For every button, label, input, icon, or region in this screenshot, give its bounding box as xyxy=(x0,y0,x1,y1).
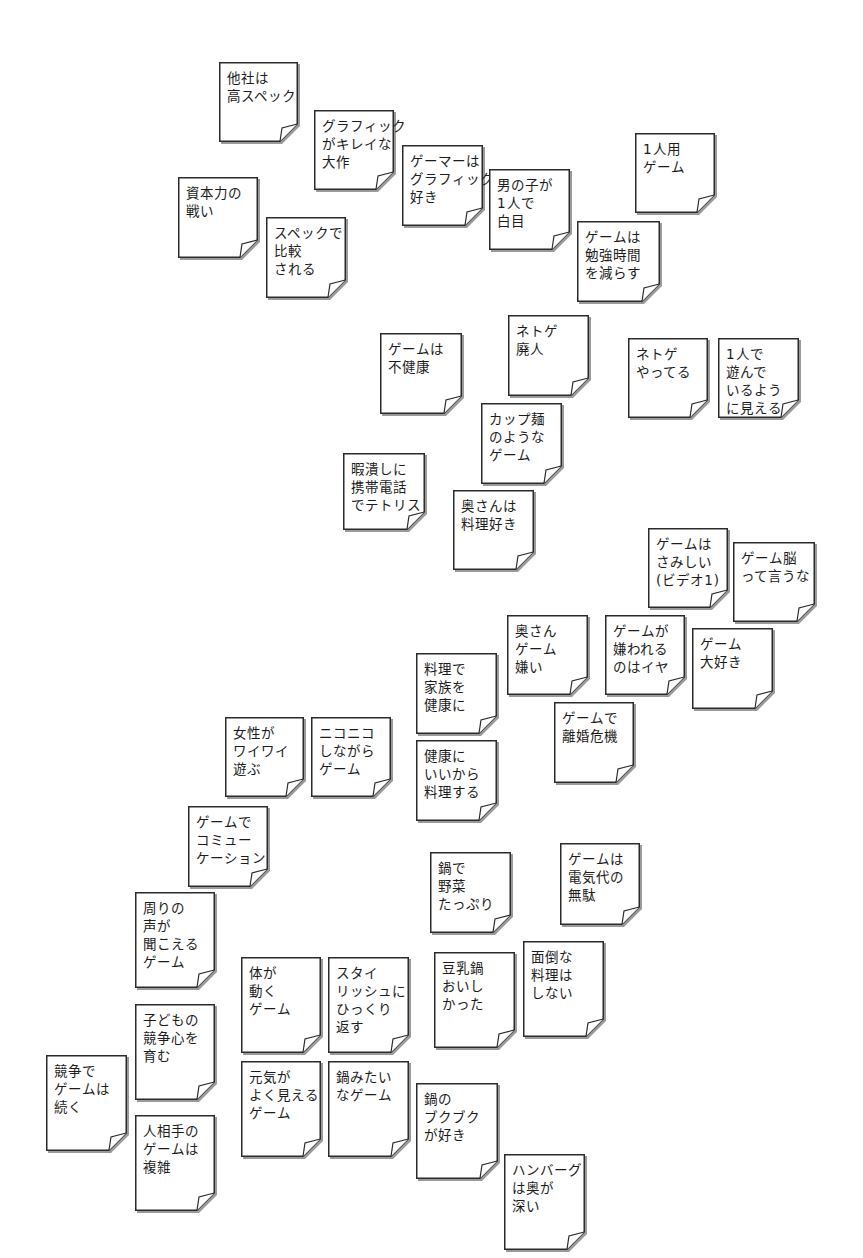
sticky-note-n03[interactable]: ゲーマーはグラフィック好き xyxy=(402,145,483,226)
note-line: ゲームは xyxy=(656,535,724,553)
note-line: スペックで xyxy=(274,224,342,242)
note-line: ニコニコ xyxy=(319,724,387,742)
note-line: よく見える xyxy=(249,1086,317,1104)
note-line: 返す xyxy=(336,1018,405,1036)
note-text: ゲームは勉強時間を減らす xyxy=(585,228,656,282)
note-line: 嫌い xyxy=(515,658,584,676)
sticky-note-n36[interactable]: 元気がよく見えるゲーム xyxy=(241,1061,321,1157)
sticky-note-n10[interactable]: ネトゲ廃人 xyxy=(508,315,589,396)
note-line: 豆乳鍋 xyxy=(442,959,511,977)
sticky-note-n27[interactable]: 鍋で野菜たっぷり xyxy=(430,852,511,933)
note-line: 高スペック xyxy=(227,87,294,105)
note-text: 鍋のブクブクが好き xyxy=(424,1090,494,1144)
note-line: ゲーム xyxy=(489,446,558,464)
note-text: 競争でゲームは続く xyxy=(54,1062,123,1116)
sticky-note-n14[interactable]: 暇潰しに携帯電話でテトリス xyxy=(343,453,425,530)
note-line: 比較 xyxy=(274,242,342,260)
note-text: ニコニコしながらゲーム xyxy=(319,724,387,778)
note-line: ゲーム xyxy=(515,640,584,658)
sticky-note-n31[interactable]: 豆乳鍋おいしかった xyxy=(434,952,515,1048)
note-line: 人相手の xyxy=(143,1122,211,1140)
note-text: ゲームはさみしい(ビデオ1) xyxy=(656,535,724,589)
sticky-note-n09[interactable]: ゲームは不健康 xyxy=(380,333,462,414)
note-line: を減らす xyxy=(585,264,656,282)
note-text: 鍋みたいなゲーム xyxy=(336,1068,405,1104)
note-line: 好き xyxy=(410,188,479,206)
note-line: 奥さん xyxy=(515,622,584,640)
note-line: 大好き xyxy=(700,653,769,671)
sticky-note-n07[interactable]: スペックで比較される xyxy=(266,217,346,298)
note-line: カップ麺 xyxy=(489,410,558,428)
sticky-note-n30[interactable]: 面倒な料理はしない xyxy=(523,941,604,1037)
note-text: 1人で遊んでいるように見える xyxy=(726,345,795,417)
note-line: がキレイな xyxy=(322,135,390,153)
sticky-note-n16[interactable]: ゲームはさみしい(ビデオ1) xyxy=(648,528,728,608)
note-line: 健康に xyxy=(424,747,493,765)
note-line: 1人用 xyxy=(643,140,711,158)
sticky-note-n39[interactable]: 人相手のゲームは複雑 xyxy=(135,1115,215,1211)
note-line: しながら xyxy=(319,742,387,760)
sticky-note-n08[interactable]: ゲームは勉強時間を減らす xyxy=(577,221,660,302)
note-line: は奥が xyxy=(512,1179,581,1197)
sticky-note-n20[interactable]: ゲーム大好き xyxy=(692,628,773,709)
sticky-note-n13[interactable]: カップ麺のようなゲーム xyxy=(481,403,562,484)
sticky-note-n22[interactable]: ゲームで離婚危機 xyxy=(554,702,634,783)
note-text: ゲームでコミューケーション xyxy=(196,813,264,867)
note-line: 白目 xyxy=(497,212,566,230)
sticky-note-n01[interactable]: 他社は高スペック xyxy=(219,62,298,142)
note-line: ゲーム xyxy=(249,1000,317,1018)
sticky-note-n06[interactable]: 資本力の戦い xyxy=(178,177,258,258)
note-line: 暇潰しに xyxy=(351,460,421,478)
note-line: なゲーム xyxy=(336,1086,405,1104)
note-line: 料理する xyxy=(424,783,493,801)
note-text: 男の子が1人で白目 xyxy=(497,176,566,230)
sticky-note-n24[interactable]: ニコニコしながらゲーム xyxy=(311,717,391,797)
sticky-note-n29[interactable]: 周りの声が聞こえるゲーム xyxy=(135,892,215,988)
sticky-note-n28[interactable]: ゲームは電気代の無駄 xyxy=(560,843,640,925)
note-line: ゲーマーは xyxy=(410,152,479,170)
sticky-note-n17[interactable]: ゲーム脳って言うな xyxy=(733,542,815,622)
sticky-note-n38[interactable]: 鍋のブクブクが好き xyxy=(416,1083,498,1179)
note-line: 無駄 xyxy=(568,886,636,904)
note-line: ブクブク xyxy=(424,1108,494,1126)
sticky-note-n37[interactable]: 鍋みたいなゲーム xyxy=(328,1061,409,1157)
sticky-note-n12[interactable]: 1人で遊んでいるように見える xyxy=(718,338,799,418)
note-line: 遊んで xyxy=(726,363,795,381)
sticky-note-n26[interactable]: ゲームでコミューケーション xyxy=(188,806,268,887)
note-line: 不健康 xyxy=(388,358,458,376)
sticky-note-n35[interactable]: 競争でゲームは続く xyxy=(46,1055,127,1151)
note-line: 電気代の xyxy=(568,868,636,886)
note-line: 鍋みたい xyxy=(336,1068,405,1086)
note-line: ゲーム脳 xyxy=(741,549,811,567)
note-text: 体が動くゲーム xyxy=(249,964,317,1018)
note-line: グラフィック xyxy=(410,170,479,188)
sticky-note-n02[interactable]: グラフィックがキレイな大作 xyxy=(314,110,394,190)
sticky-note-n23[interactable]: 女性がワイワイ遊ぶ xyxy=(225,717,304,797)
note-text: 奥さんゲーム嫌い xyxy=(515,622,584,676)
sticky-note-n40[interactable]: ハンバーグは奥が深い xyxy=(504,1154,585,1250)
note-line: かった xyxy=(442,995,511,1013)
note-line: ゲームは xyxy=(388,340,458,358)
note-text: 人相手のゲームは複雑 xyxy=(143,1122,211,1176)
sticky-note-n18[interactable]: 奥さんゲーム嫌い xyxy=(507,615,588,695)
sticky-note-n04[interactable]: 男の子が1人で白目 xyxy=(489,169,570,250)
note-line: ゲーム xyxy=(643,158,711,176)
note-line: 携帯電話 xyxy=(351,478,421,496)
note-line: ゲームで xyxy=(562,709,630,727)
note-line: 競争心を xyxy=(143,1029,211,1047)
sticky-note-n21[interactable]: 料理で家族を健康に xyxy=(416,653,497,734)
sticky-note-n19[interactable]: ゲームが嫌われるのはイヤ xyxy=(605,615,685,695)
sticky-note-n34[interactable]: 子どもの競争心を育む xyxy=(135,1004,215,1100)
sticky-note-n05[interactable]: 1人用ゲーム xyxy=(635,133,715,213)
sticky-note-n15[interactable]: 奥さんは料理好き xyxy=(453,490,534,570)
sticky-note-n11[interactable]: ネトゲやってる xyxy=(628,338,708,418)
note-text: ゲームで離婚危機 xyxy=(562,709,630,745)
sticky-note-n25[interactable]: 健康にいいから料理する xyxy=(416,740,497,821)
note-line: が好き xyxy=(424,1126,494,1144)
note-text: ネトゲ廃人 xyxy=(516,322,585,358)
note-line: 体が xyxy=(249,964,317,982)
sticky-note-n32[interactable]: 体が動くゲーム xyxy=(241,957,321,1053)
note-line: 男の子が xyxy=(497,176,566,194)
sticky-note-n33[interactable]: スタイリッシュにひっくり返す xyxy=(328,957,409,1053)
note-text: ハンバーグは奥が深い xyxy=(512,1161,581,1215)
